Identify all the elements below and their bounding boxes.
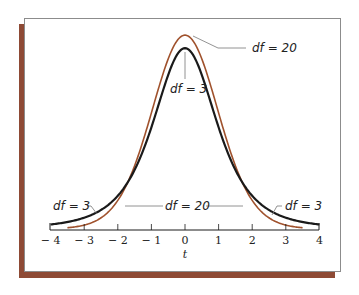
label-df20-peak: df = 20 bbox=[252, 41, 297, 55]
x-tick-label: − 1 bbox=[142, 234, 162, 247]
label-df3-peak: df = 3 bbox=[170, 82, 207, 96]
label-df3-right-tail: df = 3 bbox=[285, 199, 322, 213]
leader-lines bbox=[87, 36, 282, 215]
x-tick-label: 1 bbox=[215, 234, 222, 247]
label-df3-left-tail: df = 3 bbox=[53, 199, 90, 213]
x-tick-label: 3 bbox=[282, 234, 289, 247]
x-tick-label: − 3 bbox=[74, 234, 94, 247]
x-tick-label: 0 bbox=[182, 234, 189, 247]
x-tick-label: − 2 bbox=[108, 234, 128, 247]
x-tick-label: 4 bbox=[316, 234, 323, 247]
t-distribution-chart: − 4− 3− 2− 101234 df = 20 df = 3 df = 3 … bbox=[0, 0, 359, 295]
x-tick-label: 2 bbox=[249, 234, 256, 247]
x-axis: − 4− 3− 2− 101234 bbox=[41, 223, 323, 247]
label-df20-middle: df = 20 bbox=[165, 199, 210, 213]
x-tick-label: − 4 bbox=[41, 234, 61, 247]
x-axis-label: t bbox=[183, 248, 188, 261]
